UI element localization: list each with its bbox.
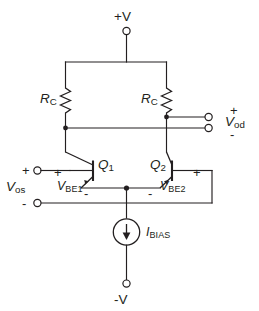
rc-right-sub: C	[151, 96, 158, 107]
resistor-rc-left-label: RC	[40, 92, 57, 106]
q1-base-plus-sign: +	[54, 166, 62, 179]
input-terminal-minus[interactable]	[34, 199, 41, 206]
q2-vbe-label: VBE2	[160, 180, 186, 193]
q1-sub: 1	[109, 162, 115, 173]
q1-collector-lead	[66, 152, 94, 165]
q1-emitter-minus-sign: -	[84, 187, 88, 200]
vos-main: V	[6, 179, 15, 194]
vos-sub: os	[15, 184, 25, 195]
q2-collector-lead	[167, 152, 173, 165]
vbe1-sub: BE1	[65, 184, 82, 194]
input-plus-sign: +	[22, 164, 30, 177]
output-minus-sign: -	[230, 128, 234, 141]
output-terminal-minus[interactable]	[205, 124, 212, 131]
ibias-sub: BIAS	[149, 230, 170, 240]
q2-sub: 2	[161, 162, 167, 173]
transistor-q2-label: Q2	[150, 158, 166, 172]
resistor-rc-left-symbol	[61, 88, 71, 113]
rc-right-main: R	[141, 91, 151, 106]
positive-supply-terminal[interactable]	[123, 27, 130, 34]
q2-base-plus-sign: +	[193, 166, 201, 179]
input-port-label: Vos	[6, 180, 25, 194]
rc-left-main: R	[40, 91, 50, 106]
input-minus-sign: -	[22, 197, 26, 210]
circuit-diagram: +V -V RC RC + Vod - + Vos - Q1 Q2 + VBE1…	[0, 0, 259, 311]
output-terminal-plus[interactable]	[205, 113, 212, 120]
input-terminal-plus[interactable]	[34, 167, 41, 174]
rc-left-sub: C	[50, 96, 57, 107]
negative-supply-terminal[interactable]	[123, 280, 130, 287]
q2-emitter-minus-sign: -	[148, 187, 152, 200]
q1-vbe-label: VBE1	[57, 180, 83, 193]
q1-main: Q	[98, 157, 109, 172]
resistor-rc-right-symbol	[162, 88, 172, 113]
transistor-q1-label: Q1	[98, 158, 114, 172]
vod-sub: od	[234, 119, 245, 130]
resistor-rc-right-label: RC	[141, 92, 158, 106]
current-source-label: IBIAS	[146, 226, 170, 239]
q2-main: Q	[150, 157, 161, 172]
schematic-canvas	[0, 0, 259, 311]
vbe2-sub: BE2	[168, 184, 185, 194]
positive-supply-label: +V	[114, 10, 131, 24]
negative-supply-label: -V	[114, 293, 128, 307]
output-port-label: Vod	[225, 115, 245, 129]
